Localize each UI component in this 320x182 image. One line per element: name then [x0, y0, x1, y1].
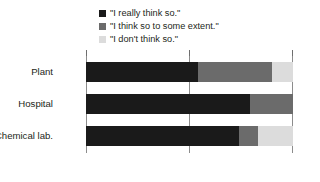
legend-item: "I really think so." — [99, 7, 299, 20]
legend-item-label: "I really think so." — [110, 7, 180, 20]
bar-segment-really — [86, 126, 239, 146]
tickmark-50 — [189, 50, 190, 56]
legend-item: "I think so to some extent." — [99, 20, 299, 33]
tickmark-0 — [86, 50, 87, 56]
bar-segment-really — [86, 94, 250, 114]
legend-item: "I don't think so." — [99, 33, 299, 46]
category-label-hospital: Hospital — [0, 94, 53, 114]
legend-item-label: "I think so to some extent." — [110, 20, 219, 33]
stacked-bar-chart: "I really think so." "I think so to some… — [0, 0, 320, 182]
bar-segment-some-extent — [250, 94, 293, 114]
bar-row-chemical-lab — [86, 126, 293, 146]
bar-segment-really — [86, 62, 198, 82]
legend-item-label: "I don't think so." — [110, 33, 178, 46]
plot-area: Plant Hospital Chemical lab. 0% 50% 100% — [86, 56, 293, 153]
bar-row-plant — [86, 62, 293, 82]
legend-swatch-icon — [99, 10, 106, 17]
bar-segment-dont-think — [272, 62, 293, 82]
bar-segment-some-extent — [198, 62, 273, 82]
bar-row-hospital — [86, 94, 293, 114]
legend-swatch-icon — [99, 23, 106, 30]
chart-legend: "I really think so." "I think so to some… — [99, 7, 299, 46]
category-label-plant: Plant — [0, 62, 53, 82]
legend-swatch-icon — [99, 36, 106, 43]
bar-segment-dont-think — [258, 126, 293, 146]
tickmark-100 — [292, 50, 293, 56]
category-label-chemical-lab: Chemical lab. — [0, 126, 53, 146]
bar-segment-some-extent — [239, 126, 258, 146]
